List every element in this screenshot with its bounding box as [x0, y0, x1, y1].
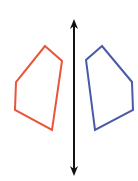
original-pentagon — [15, 46, 62, 130]
reflection-diagram — [0, 0, 138, 181]
reflected-pentagon — [86, 46, 133, 130]
mirror-line — [70, 19, 78, 176]
